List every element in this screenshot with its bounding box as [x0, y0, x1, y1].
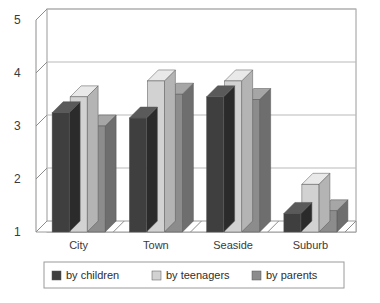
legend-label-1: by teenagers	[166, 269, 230, 281]
bar-side-face	[146, 107, 157, 232]
legend-swatch-2	[252, 271, 261, 280]
bar-side-face	[242, 70, 253, 232]
bar-front-face	[52, 113, 69, 232]
x-category-label: City	[69, 239, 88, 251]
y-tick-label: 1	[14, 225, 21, 239]
bar-town-series-0	[129, 107, 157, 232]
bar-front-face	[284, 213, 301, 232]
bar-side-face	[224, 86, 235, 232]
legend-label-2: by parents	[266, 269, 318, 281]
y-tick-label: 4	[14, 66, 21, 80]
bar-side-face	[164, 70, 175, 232]
chart-canvas: 12345CityTownSeasideSuburbby childrenby …	[0, 0, 380, 303]
legend-swatch-1	[152, 271, 161, 280]
bar-chart: 12345CityTownSeasideSuburbby childrenby …	[0, 0, 380, 303]
bar-side-face	[105, 115, 116, 232]
y-tick-label: 2	[14, 172, 21, 186]
bar-side-face	[87, 86, 98, 232]
y-tick-label: 5	[14, 13, 21, 27]
y-tick-label: 3	[14, 119, 21, 133]
legend-swatch-0	[52, 271, 61, 280]
bar-side-face	[260, 89, 271, 233]
bar-seaside-series-0	[207, 86, 235, 232]
bar-side-face	[69, 102, 80, 232]
x-category-label: Suburb	[293, 239, 328, 251]
bar-front-face	[207, 97, 224, 232]
x-category-label: Seaside	[213, 239, 253, 251]
tick-mark	[36, 62, 47, 73]
bar-city-series-0	[52, 102, 80, 232]
tick-mark	[36, 115, 47, 126]
legend-label-0: by children	[66, 269, 119, 281]
bar-front-face	[129, 118, 146, 232]
bar-side-face	[182, 83, 193, 232]
x-category-label: Town	[143, 239, 169, 251]
tick-mark	[36, 9, 47, 20]
tick-mark	[36, 168, 47, 179]
